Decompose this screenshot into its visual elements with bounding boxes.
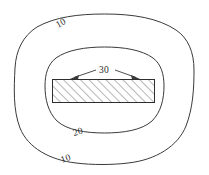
dimension-arrowhead-right [131,75,140,80]
dimension-arrowhead-left [70,75,79,80]
contour-label-outer-top: 10 [54,16,68,30]
core-dimension-label: 30 [99,65,109,75]
contour-label-outer-bottom: 10 [59,152,72,165]
core-rectangle-hatch [53,80,154,102]
contour-figure: 10 10 20 30 [0,0,209,175]
contour-diagram-canvas: 10 10 20 30 [0,0,209,175]
contour-label-inner-bottom: 20 [72,126,84,138]
